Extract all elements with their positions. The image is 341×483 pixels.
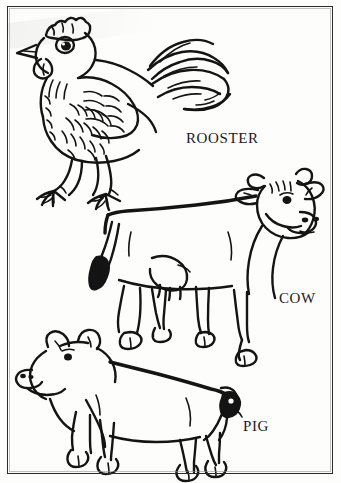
label-rooster: ROOSTER [186, 131, 259, 146]
pig-illustration [0, 0, 341, 483]
label-pig: PIG [243, 419, 269, 434]
label-cow: COW [279, 291, 316, 306]
pig-back [110, 362, 227, 395]
pig-nostril-left [20, 374, 26, 378]
pig-front-legs [67, 412, 118, 474]
coloring-page: ROOSTER COW PIG [0, 0, 341, 483]
pig-nostril-right [28, 375, 33, 379]
pig-eye-icon [64, 353, 72, 360]
pig-snout [16, 370, 42, 388]
